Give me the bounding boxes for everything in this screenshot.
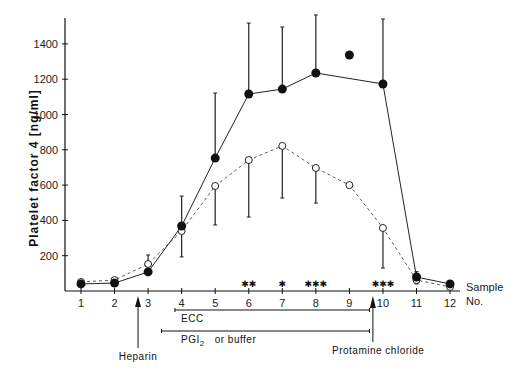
filled-circle-marker <box>177 222 186 231</box>
y-tick-label: 400 <box>40 214 58 226</box>
significance-marker: ✱✱✱ <box>372 279 395 289</box>
filled-circle-marker <box>378 79 387 88</box>
heparin-label: Heparin <box>119 351 158 362</box>
open-circle-marker <box>379 224 386 231</box>
buffer-series-line <box>81 146 450 287</box>
chart: 200400600800100012001400123456789101112 … <box>0 0 516 375</box>
y-tick-label: 600 <box>40 179 58 191</box>
x-axis-title-line2: No. <box>466 295 483 307</box>
series-layer <box>77 15 455 290</box>
filled-circle-marker <box>311 69 320 78</box>
y-tick-label: 1200 <box>34 73 58 85</box>
x-tick-label: 5 <box>212 297 218 309</box>
open-circle-marker <box>212 182 219 189</box>
significance-marker: ✱ <box>279 279 287 289</box>
significance-marker: ✱✱✱ <box>305 279 328 289</box>
protamine-label: Protamine chloride <box>332 345 424 356</box>
open-circle-marker <box>312 164 319 171</box>
filled-circle-marker <box>345 51 354 60</box>
y-tick-label: 800 <box>40 144 58 156</box>
x-tick-label: 11 <box>411 297 422 309</box>
ecc-label: ECC <box>181 313 204 324</box>
pgi2-series-line <box>81 73 450 284</box>
significance-marker: ✱✱ <box>241 279 256 289</box>
x-tick-label: 2 <box>111 297 117 309</box>
pgi2-or-buffer-label: PGI2or buffer <box>181 334 256 348</box>
x-axis-title-line1: Sample <box>466 281 503 293</box>
filled-circle-marker <box>144 267 153 276</box>
filled-circle-marker <box>77 279 86 288</box>
x-tick-label: 4 <box>179 297 185 309</box>
filled-circle-marker <box>278 85 287 94</box>
x-tick-label: 10 <box>377 297 389 309</box>
filled-circle-marker <box>110 279 119 288</box>
x-tick-label: 9 <box>346 297 352 309</box>
filled-circle-marker <box>244 90 253 99</box>
y-tick-label: 200 <box>40 250 58 262</box>
x-tick-label: 8 <box>313 297 319 309</box>
open-circle-marker <box>346 182 353 189</box>
x-tick-label: 6 <box>246 297 252 309</box>
filled-circle-marker <box>412 273 421 282</box>
filled-circle-marker <box>211 154 220 163</box>
x-tick-label: 1 <box>78 297 84 309</box>
open-circle-marker <box>245 157 252 164</box>
open-circle-marker <box>279 142 286 149</box>
x-tick-label: 7 <box>279 297 285 309</box>
y-axis-title: Platelet factor 4 [ng/ml] <box>27 89 41 247</box>
filled-circle-marker <box>446 279 455 288</box>
x-tick-label: 3 <box>145 297 151 309</box>
protamine-arrow-icon <box>370 296 376 308</box>
open-circle-marker <box>145 260 152 267</box>
x-tick-label: 12 <box>444 297 456 309</box>
heparin-arrow-icon <box>135 296 141 307</box>
y-tick-label: 1400 <box>34 38 58 50</box>
